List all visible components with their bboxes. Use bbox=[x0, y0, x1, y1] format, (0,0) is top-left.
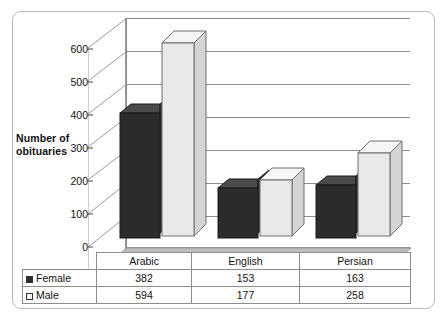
ytick-mark-100 bbox=[88, 214, 93, 215]
legend-label-female: Female bbox=[36, 272, 71, 284]
ytick-mark-400 bbox=[88, 115, 93, 116]
table-header-persian: Persian bbox=[299, 253, 410, 270]
legend-swatch-female-icon bbox=[26, 276, 33, 283]
ytick-mark-300 bbox=[88, 148, 93, 149]
y-axis-ticks: 600 500 400 300 200 100 0 bbox=[54, 18, 88, 266]
legend-label-male: Male bbox=[36, 289, 59, 301]
ytick-mark-0 bbox=[88, 247, 93, 248]
cell-male-persian: 258 bbox=[299, 287, 410, 304]
cell-male-english: 177 bbox=[192, 287, 300, 304]
legend-item-female[interactable]: Female bbox=[23, 270, 97, 287]
legend-swatch-male-icon bbox=[26, 293, 33, 300]
cell-male-arabic: 594 bbox=[97, 287, 192, 304]
table-row: Male 594 177 258 bbox=[23, 287, 411, 304]
ytick-label-300: 300 bbox=[56, 142, 88, 154]
ytick-label-500: 500 bbox=[56, 76, 88, 88]
ytick-label-100: 100 bbox=[56, 208, 88, 220]
bar-english-male[interactable] bbox=[260, 18, 315, 258]
plot-area: 600 500 400 300 200 100 0 bbox=[88, 18, 410, 266]
table-header-row: Arabic English Persian bbox=[23, 253, 411, 270]
table-row: Female 382 153 163 bbox=[23, 270, 411, 287]
cell-female-english: 153 bbox=[192, 270, 300, 287]
data-table: Arabic English Persian Female 382 153 16… bbox=[22, 252, 411, 304]
cell-female-persian: 163 bbox=[299, 270, 410, 287]
chart-figure: Number of obituaries 600 bbox=[0, 0, 447, 326]
bar-persian-male[interactable] bbox=[358, 18, 413, 258]
table-corner-cell bbox=[23, 253, 97, 270]
ytick-label-200: 200 bbox=[56, 175, 88, 187]
ytick-label-600: 600 bbox=[56, 43, 88, 55]
table-header-arabic: Arabic bbox=[97, 253, 192, 270]
ytick-label-400: 400 bbox=[56, 109, 88, 121]
table-header-english: English bbox=[192, 253, 300, 270]
cell-female-arabic: 382 bbox=[97, 270, 192, 287]
bar-arabic-male[interactable] bbox=[162, 18, 217, 258]
legend-item-male[interactable]: Male bbox=[23, 287, 97, 304]
ytick-mark-600 bbox=[88, 49, 93, 50]
ytick-mark-500 bbox=[88, 82, 93, 83]
ytick-mark-200 bbox=[88, 181, 93, 182]
